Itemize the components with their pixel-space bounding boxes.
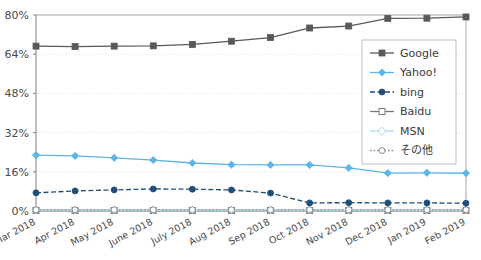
data-point-marker xyxy=(268,35,274,41)
data-point-marker xyxy=(228,38,234,44)
chart-legend: GoogleYahoo!bingBaiduMSNその他 xyxy=(362,40,456,164)
data-point-marker xyxy=(111,43,117,49)
data-point-marker xyxy=(463,14,469,20)
data-point-marker xyxy=(150,156,157,163)
data-point-marker xyxy=(33,43,39,49)
data-point-marker xyxy=(384,169,391,176)
data-point-marker xyxy=(72,44,78,50)
data-point-marker xyxy=(463,207,469,213)
series-line xyxy=(36,189,466,203)
data-point-marker xyxy=(189,41,195,47)
data-point-marker xyxy=(150,207,156,213)
data-point-marker xyxy=(385,15,391,21)
data-point-marker xyxy=(345,164,352,171)
data-point-marker xyxy=(111,154,118,161)
legend-label: Yahoo! xyxy=(399,66,437,79)
data-point-marker xyxy=(189,186,195,192)
data-point-marker xyxy=(463,200,469,206)
x-axis-tick-label: Oct 2018 xyxy=(267,216,311,246)
legend-label: MSN xyxy=(400,125,425,138)
data-point-marker xyxy=(379,148,385,154)
data-point-marker xyxy=(189,207,195,213)
data-point-marker xyxy=(462,170,469,177)
data-point-marker xyxy=(346,200,352,206)
data-point-marker xyxy=(189,159,196,166)
x-axis-tick-label: Feb 2019 xyxy=(423,216,467,246)
data-point-marker xyxy=(307,25,313,31)
x-axis-tick-label: Jan 2019 xyxy=(385,216,428,246)
data-point-marker xyxy=(33,190,39,196)
y-axis-tick-label: 16% xyxy=(5,166,29,179)
data-point-marker xyxy=(424,207,430,213)
legend-label: Google xyxy=(400,47,439,60)
data-point-marker xyxy=(385,207,391,213)
data-point-marker xyxy=(72,207,78,213)
data-point-marker xyxy=(379,50,385,56)
y-axis-tick-label: 80% xyxy=(5,9,29,22)
legend-label: その他 xyxy=(400,144,433,157)
legend-label: Baidu xyxy=(400,105,431,118)
data-point-marker xyxy=(32,152,39,159)
x-axis-tick-label: Sep 2018 xyxy=(226,216,271,247)
data-point-marker xyxy=(228,207,234,213)
data-point-marker xyxy=(424,200,430,206)
y-axis-ticks: 0%16%32%48%64%80% xyxy=(5,9,36,218)
y-axis-tick-label: 32% xyxy=(5,127,29,140)
data-point-marker xyxy=(267,161,274,168)
data-point-marker xyxy=(228,161,235,168)
data-point-marker xyxy=(424,15,430,21)
data-point-marker xyxy=(72,188,78,194)
legend-label: bing xyxy=(400,86,424,99)
data-point-marker xyxy=(385,200,391,206)
data-point-marker xyxy=(346,23,352,29)
x-axis-tick-label: Aug 2018 xyxy=(187,216,233,247)
data-point-marker xyxy=(379,109,385,115)
chart-canvas: 0%16%32%48%64%80% Mar 2018Apr 2018May 20… xyxy=(0,0,481,260)
data-point-marker xyxy=(268,207,274,213)
x-axis-tick-label: Mar 2018 xyxy=(0,216,37,247)
data-point-marker xyxy=(306,161,313,168)
data-point-marker xyxy=(111,207,117,213)
data-point-marker xyxy=(111,187,117,193)
x-axis-tick-label: June 2018 xyxy=(106,216,154,249)
y-axis-tick-label: 48% xyxy=(5,87,29,100)
data-point-marker xyxy=(228,187,234,193)
data-point-marker xyxy=(150,43,156,49)
data-point-marker xyxy=(150,186,156,192)
data-point-marker xyxy=(33,207,39,213)
x-axis-ticks: Mar 2018Apr 2018May 2018June 2018July 20… xyxy=(0,216,467,249)
data-point-marker xyxy=(71,152,78,159)
x-axis-tick-label: July 2018 xyxy=(148,216,193,247)
x-axis-tick-label: Dec 2018 xyxy=(343,216,388,247)
y-axis-tick-label: 0% xyxy=(12,205,29,218)
data-point-marker xyxy=(423,169,430,176)
x-axis-tick-label: Nov 2018 xyxy=(304,216,350,247)
data-point-marker xyxy=(379,89,385,95)
data-point-marker xyxy=(268,190,274,196)
y-axis-tick-label: 64% xyxy=(5,48,29,61)
line-chart: 0%16%32%48%64%80% Mar 2018Apr 2018May 20… xyxy=(0,0,481,260)
series-bing xyxy=(33,186,469,206)
data-point-marker xyxy=(307,207,313,213)
data-point-marker xyxy=(307,200,313,206)
data-point-marker xyxy=(346,207,352,213)
